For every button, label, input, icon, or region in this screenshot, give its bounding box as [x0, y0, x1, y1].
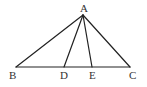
triangle-diagram: A B D E C [0, 0, 147, 87]
label-e: E [89, 69, 96, 81]
label-b: B [9, 69, 16, 81]
label-c: C [129, 69, 136, 81]
label-d: D [60, 69, 68, 81]
label-a: A [80, 2, 88, 14]
